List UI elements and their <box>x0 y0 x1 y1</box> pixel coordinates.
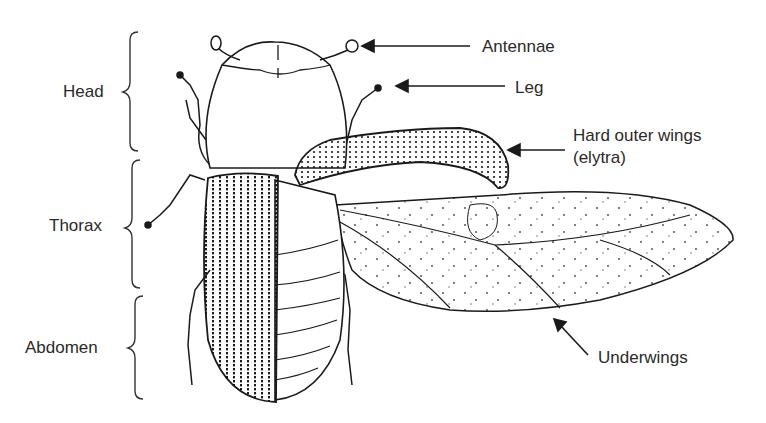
head-bracket <box>123 32 138 151</box>
segment-brackets <box>123 32 143 399</box>
thorax-bracket <box>125 160 140 288</box>
antennae-label: Antennae <box>482 37 555 56</box>
head-label: Head <box>63 82 104 101</box>
leg-label: Leg <box>515 78 543 97</box>
beetle-abdomen <box>275 180 344 400</box>
underwing <box>335 192 733 312</box>
underwings-label: Underwings <box>598 348 688 367</box>
abdomen-bracket <box>128 296 143 399</box>
elytron-closed <box>204 173 278 402</box>
abdomen-label: Abdomen <box>25 338 98 357</box>
elytra-label-line2: (elytra) <box>573 148 626 167</box>
underwings-arrow <box>560 325 588 355</box>
elytra-label-line1: Hard outer wings <box>573 126 702 145</box>
thorax-label: Thorax <box>49 216 102 235</box>
